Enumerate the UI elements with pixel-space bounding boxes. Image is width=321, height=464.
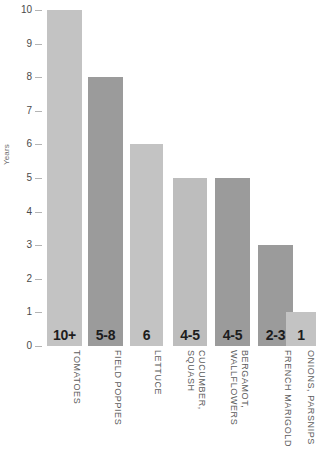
y-axis-tick: 6 bbox=[0, 139, 44, 149]
y-axis-tick-mark bbox=[35, 279, 42, 280]
bar[interactable]: 4-5 bbox=[215, 178, 250, 346]
y-axis-tick: 1 bbox=[0, 307, 44, 317]
bar-chart: Years 109876543210 10+5-864-54-52-31 TOM… bbox=[0, 0, 321, 464]
y-axis-tick: 2 bbox=[0, 274, 44, 284]
y-axis-tick-label: 10 bbox=[21, 5, 32, 15]
y-axis-tick-label: 9 bbox=[26, 39, 32, 49]
y-axis-tick-label: 2 bbox=[26, 274, 32, 284]
y-axis-tick-mark bbox=[35, 77, 42, 78]
y-axis-tick-mark bbox=[35, 44, 42, 45]
y-axis-tick: 5 bbox=[0, 173, 44, 183]
y-axis-tick-mark bbox=[35, 245, 42, 246]
bar-group[interactable]: 1 bbox=[286, 10, 316, 346]
bar[interactable]: 5-8 bbox=[88, 77, 123, 346]
bar-group[interactable]: 10+ bbox=[47, 10, 82, 346]
y-axis-tick-label: 1 bbox=[26, 307, 32, 317]
category-label-inner: ONIONS, PARSNIPS bbox=[202, 350, 316, 464]
y-axis-tick-mark bbox=[35, 10, 42, 11]
y-axis-tick-mark bbox=[35, 178, 42, 179]
category-label: ONIONS, PARSNIPS bbox=[286, 350, 316, 464]
y-axis-tick-mark bbox=[35, 144, 42, 145]
y-axis-tick: 7 bbox=[0, 106, 44, 116]
y-axis-tick-label: 3 bbox=[26, 240, 32, 250]
y-axis-tick-label: 5 bbox=[26, 173, 32, 183]
x-axis-category-labels: TOMATOESFIELD POPPIESLETTUCECUCUMBER,SQU… bbox=[47, 350, 321, 464]
y-axis-tick: 10 bbox=[0, 5, 44, 15]
bar-value-label: 1 bbox=[286, 327, 316, 343]
y-axis-tick-label: 8 bbox=[26, 72, 32, 82]
plot-area: 10+5-864-54-52-31 bbox=[47, 10, 321, 346]
y-axis-tick-mark bbox=[35, 312, 42, 313]
bar-group[interactable]: 6 bbox=[130, 10, 163, 346]
y-axis-tick-mark bbox=[35, 212, 42, 213]
bar[interactable]: 10+ bbox=[47, 10, 82, 346]
bar-group[interactable]: 4-5 bbox=[173, 10, 207, 346]
bar-group[interactable]: 5-8 bbox=[88, 10, 123, 346]
bar[interactable]: 1 bbox=[286, 312, 316, 346]
bar[interactable]: 4-5 bbox=[173, 178, 207, 346]
y-axis-tick: 4 bbox=[0, 207, 44, 217]
y-axis-tick: 9 bbox=[0, 39, 44, 49]
y-axis-tick-label: 7 bbox=[26, 106, 32, 116]
bar-value-label: 6 bbox=[130, 327, 163, 343]
y-axis-tick-label: 4 bbox=[26, 207, 32, 217]
y-axis-tick-label: 6 bbox=[26, 139, 32, 149]
bar-value-label: 5-8 bbox=[88, 327, 123, 343]
bar[interactable]: 6 bbox=[130, 144, 163, 346]
y-axis-tick-mark bbox=[35, 111, 42, 112]
y-axis-tick: 8 bbox=[0, 72, 44, 82]
category-label-line: ONIONS, PARSNIPS bbox=[306, 350, 317, 464]
bar-value-label: 4-5 bbox=[173, 327, 207, 343]
y-axis-tick-mark bbox=[35, 346, 42, 347]
bar-value-label: 10+ bbox=[47, 327, 82, 343]
y-axis-tick: 3 bbox=[0, 240, 44, 250]
bar-value-label: 4-5 bbox=[215, 327, 250, 343]
bar-group[interactable]: 4-5 bbox=[215, 10, 250, 346]
